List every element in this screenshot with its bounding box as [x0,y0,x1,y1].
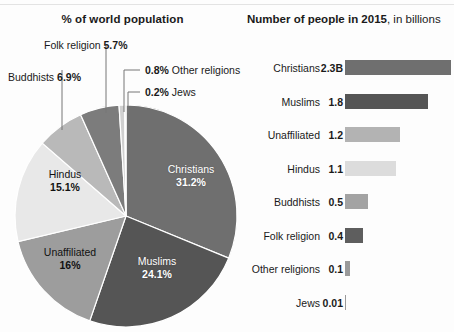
pie-callout-buddhists: Buddhists 6.9% [8,71,81,83]
bar-chart-title-strong: Number of people in 2015 [247,13,387,25]
bar-value-unaffiliated: 1.2 [328,129,343,141]
pie-callout-buddhists-name: Buddhists [8,71,54,83]
bar-label-unaffiliated: Unaffiliated [268,129,320,141]
pie-label-christians-name: Christians [168,163,215,175]
bar-chart-rows: Christians2.3BMuslims1.8Unaffiliated1.2H… [245,56,454,324]
pie-label-hindus-value: 15.1% [24,181,106,194]
bar-value-buddhists: 0.5 [328,196,343,208]
bar-row: Jews0.01 [245,291,454,325]
pie-callout-other-religions-name: Other religions [172,64,240,76]
pie-callout-jews: 0.2% Jews [145,86,196,98]
bar-track-jews [345,295,346,310]
pie-label-muslims: Muslims 24.1% [118,255,196,281]
infographic-root: % of world population Christians 31.2% M… [0,0,454,332]
bar-label-other-religions: Other religions [252,263,320,275]
bar-fill-jews[interactable] [345,295,346,310]
bar-fill-folk-religion[interactable] [345,228,363,243]
bar-label-hindus: Hindus [287,163,320,175]
bar-track-christians [345,60,451,75]
bar-row: Christians2.3B [245,56,454,90]
bar-label-muslims: Muslims [282,96,321,108]
pie-label-unaffiliated-value: 16% [22,259,118,272]
bar-track-folk-religion [345,228,363,243]
pie-callout-jews-name: Jews [172,86,196,98]
bar-label-buddhists: Buddhists [274,196,320,208]
bar-value-jews: 0.01 [323,297,343,309]
pie-slice-group [15,105,237,327]
pie-callout-folk-religion-value: 5.7% [104,39,128,51]
pie-label-christians-value: 31.2% [152,176,230,189]
bar-chart-title-rest: , in billions [387,13,441,25]
bar-row: Buddhists0.5 [245,190,454,224]
pie-callout-folk-religion-name: Folk religion [44,39,101,51]
bar-track-other-religions [345,261,350,276]
bar-fill-christians[interactable] [345,60,451,75]
pie-label-hindus-name: Hindus [49,168,82,180]
pie-label-unaffiliated-name: Unaffiliated [44,246,96,258]
bar-track-hindus [345,161,396,176]
bar-track-unaffiliated [345,127,400,142]
bar-fill-unaffiliated[interactable] [345,127,400,142]
bar-track-buddhists [345,194,368,209]
bar-fill-muslims[interactable] [345,94,428,109]
bar-label-folk-religion: Folk religion [263,230,320,242]
bar-value-folk-religion: 0.4 [328,230,343,242]
pie-label-muslims-value: 24.1% [118,268,196,281]
bar-label-christians: Christians [273,62,320,74]
pie-label-christians: Christians 31.2% [152,163,230,189]
pie-label-hindus: Hindus 15.1% [24,168,106,194]
pie-callout-buddhists-value: 6.9% [57,71,81,83]
bar-value-christians: 2.3B [321,62,343,74]
bar-value-hindus: 1.1 [328,163,343,175]
bar-fill-other-religions[interactable] [345,261,350,276]
bar-value-other-religions: 0.1 [328,263,343,275]
pie-callout-other-religions-value: 0.8% [145,64,169,76]
bar-row: Muslims1.8 [245,90,454,124]
bar-row: Folk religion0.4 [245,224,454,258]
bar-fill-buddhists[interactable] [345,194,368,209]
bar-track-muslims [345,94,428,109]
pie-label-unaffiliated: Unaffiliated 16% [22,246,118,272]
bar-chart-panel: Number of people in 2015, in billions Ch… [245,0,454,332]
pie-callout-folk-religion: Folk religion 5.7% [44,39,127,51]
pie-label-muslims-name: Muslims [138,255,177,267]
pie-callout-other-religions: 0.8% Other religions [145,64,240,76]
bar-row: Hindus1.1 [245,157,454,191]
pie-chart-panel: % of world population Christians 31.2% M… [0,0,245,332]
bar-label-jews: Jews [296,297,320,309]
bar-row: Other religions0.1 [245,257,454,291]
bar-value-muslims: 1.8 [328,96,343,108]
bar-fill-hindus[interactable] [345,161,396,176]
bar-chart-title: Number of people in 2015, in billions [247,13,441,25]
pie-callout-jews-value: 0.2% [145,86,169,98]
bar-row: Unaffiliated1.2 [245,123,454,157]
